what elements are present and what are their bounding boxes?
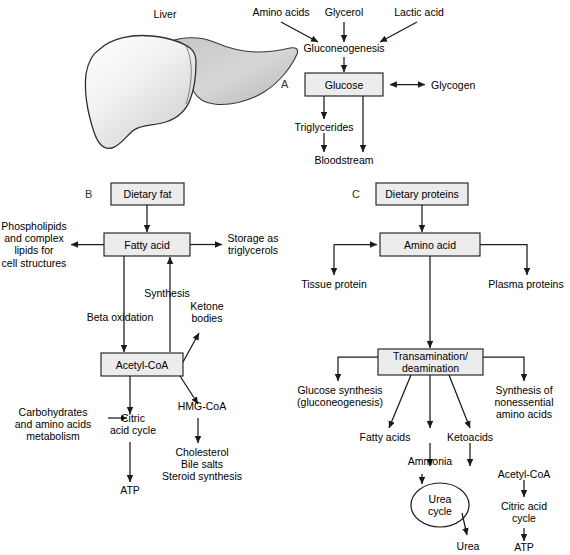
node-glycerol: Glycerol xyxy=(325,6,364,18)
box-fatty-acid: Fatty acid xyxy=(124,238,170,250)
node-ketoacids: Ketoacids xyxy=(447,431,493,443)
node-ammonia: Ammonia xyxy=(408,455,452,467)
node-glycogen: Glycogen xyxy=(431,79,475,91)
panel-letter-c: C xyxy=(352,188,360,200)
box-glucose: Glucose xyxy=(325,79,364,91)
node-phospholipids: Phospholipids and complex lipids for cel… xyxy=(1,220,66,269)
panel-letter-b: B xyxy=(85,188,92,200)
node-beta-oxidation: Beta oxidation xyxy=(87,311,154,323)
box-transamination: Transamination/ deamination xyxy=(393,350,468,374)
node-urea: Urea xyxy=(457,540,480,552)
node-plasma-proteins: Plasma proteins xyxy=(488,278,563,290)
node-fatty-acids-c: Fatty acids xyxy=(360,431,411,443)
box-acetyl-coa-b: Acetyl-CoA xyxy=(116,358,169,370)
node-nonessential-aa: Synthesis of nonessential amino acids xyxy=(495,384,554,421)
panel-letter-a: A xyxy=(281,78,288,90)
node-storage-triglycerols: Storage as triglycerols xyxy=(228,232,279,256)
panel-b-connectors xyxy=(71,183,222,482)
box-amino-acid: Amino acid xyxy=(404,238,456,250)
node-urea-cycle: Urea cycle xyxy=(428,493,452,517)
node-lactic-acid: Lactic acid xyxy=(394,6,444,18)
node-gluconeogenesis: Gluconeogenesis xyxy=(303,42,384,54)
node-glucose-synthesis: Glucose synthesis (gluconeogenesis) xyxy=(297,384,383,408)
node-atp-c: ATP xyxy=(514,541,534,553)
liver-label: Liver xyxy=(154,8,177,20)
liver-illustration xyxy=(85,36,297,149)
node-amino-acids: Amino acids xyxy=(252,6,309,18)
node-sterol-products: Cholesterol Bile salts Steroid synthesis xyxy=(162,446,242,483)
node-triglycerides: Triglycerides xyxy=(294,121,353,133)
node-citric-acid-cycle-c: Citric acid cycle xyxy=(501,500,547,524)
node-citric-acid-cycle-b: Citric acid cycle xyxy=(110,412,156,436)
node-acetyl-coa-c: Acetyl-CoA xyxy=(498,468,551,480)
node-bloodstream: Bloodstream xyxy=(315,154,374,166)
node-ketone-bodies: Ketone bodies xyxy=(190,300,223,324)
figure-canvas: Liver A B C Amino acids Glycerol Lactic … xyxy=(0,0,570,555)
node-synthesis: Synthesis xyxy=(144,287,190,299)
node-hmg-coa: HMG-CoA xyxy=(178,400,226,412)
box-dietary-proteins: Dietary proteins xyxy=(385,188,459,200)
box-dietary-fat: Dietary fat xyxy=(124,188,172,200)
node-carbohydrate-input: Carbohydrates and amino acids metabolism xyxy=(15,406,91,443)
node-atp-b: ATP xyxy=(120,484,140,496)
node-tissue-protein: Tissue protein xyxy=(301,278,367,290)
